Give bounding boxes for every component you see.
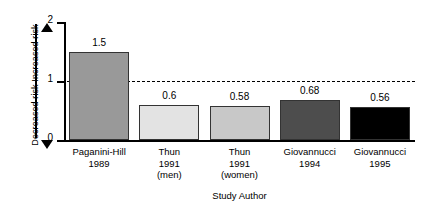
category-label-line: 1989 [64,158,134,170]
bar-value-label: 0.6 [162,91,176,101]
bar-series: 1.50.60.580.680.56 [64,22,415,140]
y-tick-label: 0 [47,133,53,143]
category-label-line: Giovannucci [275,146,345,158]
bar[interactable] [139,105,199,140]
category-label: Giovannucci1995 [345,146,415,169]
category-label-line: Thun [134,146,204,158]
bar[interactable] [280,100,340,140]
chart-figure: Increased risk Decreased risk 012 1.50.6… [0,0,426,209]
category-label: Giovannucci1994 [275,146,345,169]
bar-slot: 1.5 [69,22,129,140]
bar-value-label: 0.56 [370,93,389,103]
y-tick-label: 1 [47,74,53,84]
risk-direction-axis: Increased risk Decreased risk [24,18,44,142]
x-axis-category-labels: Paganini-Hill1989Thun1991(men)Thun1991(w… [64,146,415,188]
bar-slot: 0.58 [210,22,270,140]
bar-slot: 0.56 [350,22,410,140]
plot-area: 012 1.50.60.580.680.56 [64,22,415,140]
y-tick-label: 2 [47,15,53,25]
category-label-line: Giovannucci [345,146,415,158]
bar-slot: 0.68 [280,22,340,140]
category-label-line: Paganini-Hill [64,146,134,158]
y-tick-0: 0 [57,140,65,142]
category-label: Paganini-Hill1989 [64,146,134,169]
bar-value-label: 1.5 [92,38,106,48]
bar-slot: 0.6 [139,22,199,140]
decreased-risk-label: Decreased risk [30,60,40,170]
category-label-line: 1995 [345,158,415,170]
category-label-line: (women) [204,169,274,181]
bar[interactable] [350,107,410,140]
x-axis-line [64,140,415,142]
bar-value-label: 0.68 [300,86,319,96]
category-label-line: 1991 [204,158,274,170]
bar[interactable] [69,52,129,141]
x-axis-title: Study Author [64,190,415,201]
category-label-line: Thun [204,146,274,158]
category-label-line: (men) [134,169,204,181]
category-label-line: 1991 [134,158,204,170]
category-label: Thun1991(men) [134,146,204,181]
category-label: Thun1991(women) [204,146,274,181]
category-label-line: 1994 [275,158,345,170]
bar-value-label: 0.58 [230,92,249,102]
bar[interactable] [210,106,270,140]
